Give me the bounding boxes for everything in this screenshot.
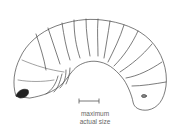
scale-bar-caption: maximum actual size	[70, 110, 120, 125]
scale-bar	[79, 99, 99, 104]
head	[16, 89, 29, 98]
scale-label-line2: actual size	[70, 118, 120, 126]
scale-label-line1: maximum	[70, 110, 120, 118]
